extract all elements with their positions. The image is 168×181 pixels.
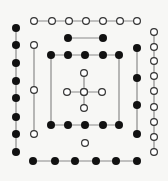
filled-node [71, 157, 79, 165]
open-node [100, 18, 107, 25]
filled-node [133, 157, 141, 165]
open-node [66, 18, 73, 25]
dot-chain-diagram [0, 0, 168, 181]
filled-node [12, 94, 20, 102]
filled-node [12, 41, 20, 49]
filled-node [47, 121, 55, 129]
open-node [151, 58, 158, 65]
open-node [151, 29, 158, 36]
open-node [31, 131, 38, 138]
open-node [81, 70, 88, 77]
open-node [99, 89, 106, 96]
filled-node [51, 157, 59, 165]
open-node [64, 89, 71, 96]
open-node [31, 18, 38, 25]
open-node [117, 18, 124, 25]
filled-node [99, 51, 107, 59]
filled-node [64, 51, 72, 59]
filled-node [12, 148, 20, 156]
open-node [83, 18, 90, 25]
filled-node [12, 59, 20, 67]
open-node [49, 18, 56, 25]
filled-node [64, 121, 72, 129]
open-node [82, 140, 89, 147]
open-node [81, 89, 88, 96]
filled-node [115, 51, 123, 59]
filled-node [12, 24, 20, 32]
open-node [31, 42, 38, 49]
filled-node [47, 51, 55, 59]
open-node [151, 88, 158, 95]
filled-node [133, 74, 141, 82]
open-node [151, 104, 158, 111]
filled-node [133, 101, 141, 109]
filled-node [29, 157, 37, 165]
filled-node [133, 130, 141, 138]
filled-node [64, 34, 72, 42]
filled-node [92, 157, 100, 165]
filled-node [112, 157, 120, 165]
filled-node [133, 44, 141, 52]
filled-node [99, 34, 107, 42]
open-node [151, 149, 158, 156]
filled-node [12, 130, 20, 138]
filled-node [99, 121, 107, 129]
open-node [134, 18, 141, 25]
filled-node [12, 77, 20, 85]
open-node [151, 119, 158, 126]
filled-node [81, 121, 89, 129]
open-node [151, 73, 158, 80]
filled-node [115, 121, 123, 129]
filled-node [12, 113, 20, 121]
open-node [31, 87, 38, 94]
open-node [151, 134, 158, 141]
open-node [81, 105, 88, 112]
filled-node [81, 51, 89, 59]
open-node [151, 44, 158, 51]
